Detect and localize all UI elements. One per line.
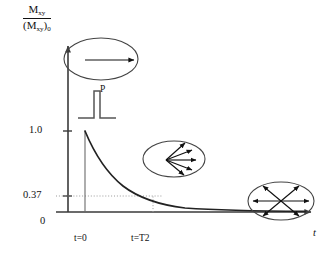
ellipse-outline <box>143 141 205 177</box>
t2-relaxation-figure <box>0 0 327 260</box>
annotation-spins-fully-dephased <box>248 182 314 220</box>
y-tick-label-0.37: 0.37 <box>23 190 41 201</box>
y-tick-label-1.0: 1.0 <box>29 125 42 136</box>
spin-arrow <box>166 143 185 160</box>
decay-curve <box>85 131 305 211</box>
spin-arrow <box>166 160 184 175</box>
y-axis-numerator: Mxy <box>23 4 51 19</box>
annotation-spins-dephasing <box>143 141 205 177</box>
pulse-label: P <box>100 85 105 95</box>
x-tick-label-t0: t=0 <box>74 234 87 244</box>
x-tick-label-t-T2: t=T2 <box>131 234 150 244</box>
rf-pulse <box>78 91 116 118</box>
annotation-spins-in-phase <box>64 38 138 80</box>
spin-arrow <box>166 150 192 160</box>
ellipse-outline <box>64 38 138 80</box>
spin-arrow <box>166 160 192 170</box>
y-axis-label: Mxy (Mxy)0 <box>23 4 51 33</box>
x-axis-label: t <box>313 228 316 239</box>
y-axis-denominator: (Mxy)0 <box>23 19 51 33</box>
y-tick-label-0: 0 <box>40 216 45 227</box>
